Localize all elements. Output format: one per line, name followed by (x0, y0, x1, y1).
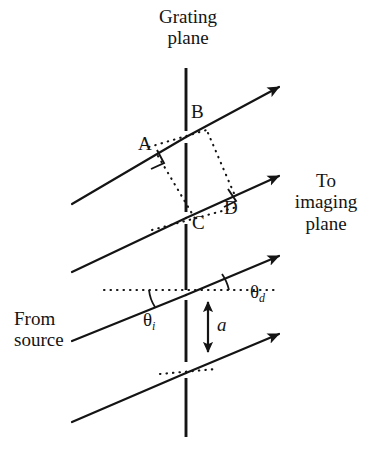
grating-spacing-label: a (217, 314, 227, 335)
theta-d-subscript: d (259, 291, 265, 305)
ray-4-incident (72, 373, 186, 422)
dotted-construction-lines (149, 129, 237, 374)
to-imaging-plane-label: To imaging plane (283, 170, 369, 234)
point-c-label: C (192, 212, 205, 233)
from-source-label: From source (14, 308, 114, 351)
right-angle-mark-at-a (151, 150, 164, 169)
grating-plane-label: Grating plane (133, 6, 243, 49)
dotted-path-b-to-d (208, 133, 236, 198)
point-b-label: B (191, 101, 204, 122)
ray-1 (72, 87, 279, 204)
theta-i-symbol: θ (143, 309, 152, 330)
ray-1-incident (72, 137, 186, 204)
theta-d-symbol: θ (250, 281, 259, 302)
ray-4-diffracted (186, 334, 279, 373)
grating-diagram-figure: Grating plane To imaging plane From sour… (0, 0, 373, 462)
theta-i-label: θi (127, 291, 155, 351)
point-d-label: D (224, 197, 238, 218)
ray-2 (72, 176, 279, 272)
point-a-label: A (138, 133, 152, 154)
theta-d-label: θd (234, 263, 265, 323)
theta-i-subscript: i (152, 319, 155, 333)
ray-2-incident (72, 218, 186, 272)
wavefront-a-to-b (149, 129, 210, 147)
